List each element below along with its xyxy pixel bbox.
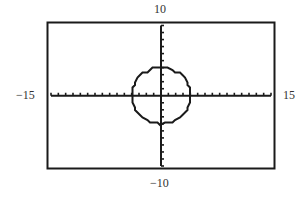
graph-screen [0, 0, 301, 198]
